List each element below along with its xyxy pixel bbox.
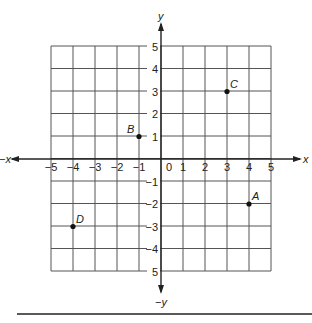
y-tick-label: 5 xyxy=(152,41,158,53)
x-tick-labels: −5−4−3−2−1012345 xyxy=(45,161,274,173)
x-tick-label: 4 xyxy=(246,161,252,173)
point-label: D xyxy=(76,213,84,225)
y-tick-label: 5 xyxy=(152,266,158,278)
x-tick-label: −4 xyxy=(67,161,80,173)
point-label: B xyxy=(127,123,134,135)
point-marker-icon xyxy=(136,134,141,139)
data-points: ABCD xyxy=(70,78,259,230)
y-tick-label: −4 xyxy=(145,243,158,255)
x-axis-label-neg: −x xyxy=(0,153,11,165)
x-axis-left-arrow-icon xyxy=(10,156,19,162)
point-c: C xyxy=(224,78,238,95)
y-axis-down-arrow-icon xyxy=(158,285,164,294)
x-tick-label: 2 xyxy=(202,161,208,173)
point-d: D xyxy=(70,213,84,230)
y-tick-label: −3 xyxy=(145,221,158,233)
y-tick-label: 3 xyxy=(152,86,158,98)
point-a: A xyxy=(246,190,259,207)
x-axis-label-pos: x xyxy=(302,153,309,165)
x-tick-label: 5 xyxy=(268,161,274,173)
x-tick-label: 3 xyxy=(224,161,230,173)
x-tick-label: 0 xyxy=(166,161,172,173)
x-tick-label: −5 xyxy=(45,161,58,173)
y-axis-label-neg: −y xyxy=(155,296,168,308)
point-marker-icon xyxy=(224,89,229,94)
x-tick-label: −1 xyxy=(133,161,146,173)
coordinate-plane: x −x y −y −5−4−3−2−1012345 54321−1−2−3−4… xyxy=(0,0,312,323)
point-label: C xyxy=(230,78,238,90)
y-tick-label: 2 xyxy=(152,108,158,120)
x-tick-label: 1 xyxy=(180,161,186,173)
y-tick-label: −2 xyxy=(145,198,158,210)
x-axis-right-arrow-icon xyxy=(293,156,302,162)
y-tick-label: 1 xyxy=(152,131,158,143)
x-tick-label: −2 xyxy=(111,161,124,173)
y-tick-label: −1 xyxy=(145,176,158,188)
point-marker-icon xyxy=(70,224,75,229)
y-axis-label-pos: y xyxy=(157,10,165,22)
x-tick-label: −3 xyxy=(89,161,102,173)
y-tick-label: 4 xyxy=(152,63,158,75)
y-axis-up-arrow-icon xyxy=(158,22,164,31)
point-marker-icon xyxy=(246,201,251,206)
point-label: A xyxy=(251,190,259,202)
